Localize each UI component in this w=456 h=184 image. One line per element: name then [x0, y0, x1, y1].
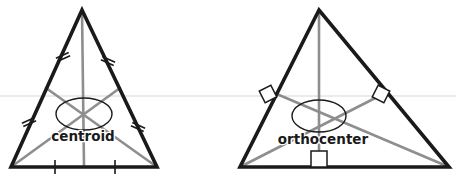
right-angle-base — [311, 151, 327, 167]
right-angle-base-square — [311, 151, 327, 167]
diagram-canvas: centroidorthocenter — [0, 0, 456, 184]
orthocenter-diagram-label: orthocenter — [278, 131, 369, 147]
triangle-centers-figure: centroidorthocenter — [0, 0, 456, 184]
centroid-diagram-label: centroid — [51, 128, 114, 144]
